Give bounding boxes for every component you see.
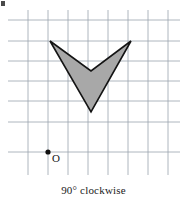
origin-point-label: O — [52, 153, 60, 164]
origin-point-dot — [45, 149, 50, 154]
figure-canvas — [0, 0, 187, 199]
rotation-figure: O 90° clockwise — [0, 0, 187, 199]
figure-caption: 90° clockwise — [0, 184, 187, 196]
